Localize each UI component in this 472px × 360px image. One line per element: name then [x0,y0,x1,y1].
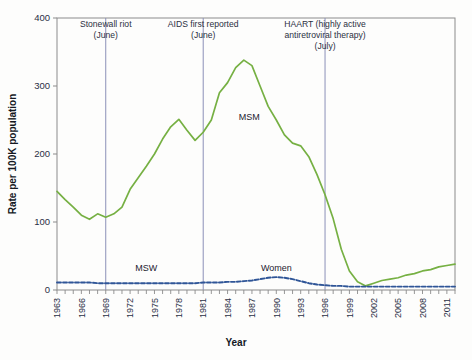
annotation-label: antiretroviral therapy) [284,30,365,40]
y-tick-label: 0 [45,284,50,295]
x-tick-label: 2008 [418,298,428,318]
x-tick-label-group: 1963 [52,298,62,318]
x-tick-label-group: 1975 [150,298,160,318]
x-tick-label: 1987 [247,298,257,318]
x-tick-label: 2011 [442,298,452,317]
x-tick-label-group: 1978 [174,298,184,318]
chart-figure: 0100200300400196319661969197219751978198… [0,0,472,360]
y-axis-title-group: Rate per 100K population [7,94,18,215]
y-tick-label: 200 [34,148,50,159]
x-tick-label-group: 1981 [198,298,208,318]
x-tick-label: 1981 [198,298,208,318]
x-tick-label: 1963 [52,298,62,318]
y-axis-title: Rate per 100K population [7,94,18,215]
line-chart: 0100200300400196319661969197219751978198… [0,0,472,360]
x-tick-label: 1972 [125,298,135,318]
x-tick-label-group: 1993 [296,298,306,318]
annotation-label: Stonewall riot [80,19,132,29]
x-tick-label-group: 2011 [442,298,452,317]
annotation-label: (June) [94,30,118,40]
x-tick-label-group: 1972 [125,298,135,318]
series-label-women: Women [261,263,292,273]
x-tick-label-group: 1984 [223,298,233,318]
x-tick-label: 1996 [320,298,330,318]
x-tick-label: 1993 [296,298,306,318]
annotation-label: HAART (highly active [284,19,366,29]
x-tick-label: 1975 [150,298,160,318]
series-label-msm: MSM [239,112,260,122]
x-axis-title: Year [225,337,246,348]
series-label-msw: MSW [135,263,158,273]
x-tick-label-group: 2008 [418,298,428,318]
x-tick-label-group: 1999 [345,298,355,318]
x-tick-label-group: 2002 [369,298,379,318]
x-tick-label: 2005 [393,298,403,318]
y-tick-label: 100 [34,216,50,227]
x-tick-label: 1984 [223,298,233,318]
x-tick-label-group: 1990 [272,298,282,318]
x-tick-label: 1978 [174,298,184,318]
series-line-msm [57,60,455,286]
x-tick-label-group: 2005 [393,298,403,318]
x-tick-label: 1969 [101,298,111,318]
x-tick-label: 1999 [345,298,355,318]
annotation-label: (June) [191,30,215,40]
y-tick-label: 300 [34,80,50,91]
x-tick-label-group: 1987 [247,298,257,318]
x-tick-label: 2002 [369,298,379,318]
x-tick-label: 1966 [77,298,87,318]
annotation-label: AIDS first reported [168,19,239,29]
x-tick-label: 1990 [272,298,282,318]
annotation-label: (July) [315,41,336,51]
y-tick-label: 400 [34,12,50,23]
x-tick-label-group: 1996 [320,298,330,318]
plot-frame [57,18,455,290]
x-tick-label-group: 1966 [77,298,87,318]
x-tick-label-group: 1969 [101,298,111,318]
